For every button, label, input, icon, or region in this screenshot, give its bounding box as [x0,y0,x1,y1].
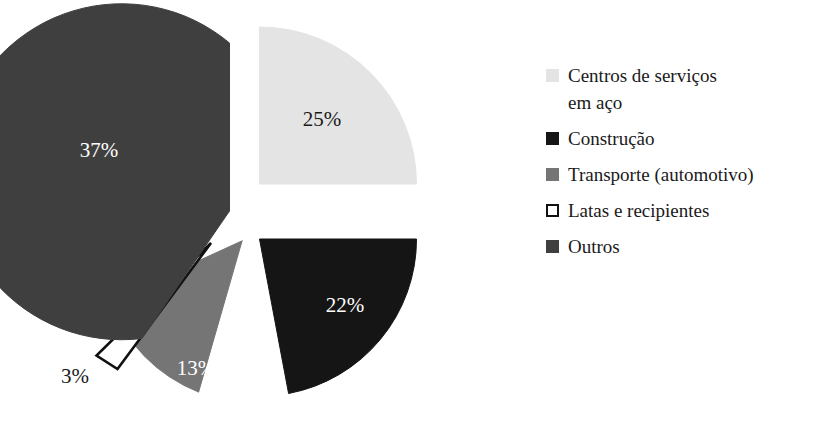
chart-legend: Centros de serviços em aço Construção Tr… [546,62,836,269]
legend-swatch-icon-transporte-automotivo [546,168,559,181]
pie-label-3: 3% [61,364,89,388]
legend-swatch-icon-centros-de-servicos-em-aco [546,69,559,82]
legend-swatch-icon-latas-e-recipientes [546,204,559,217]
legend-swatch-icon-outros [546,240,559,253]
pie-slice-centros-de-servicos-em-aco [260,27,417,184]
pie-label-37: 37% [80,138,119,162]
legend-label-outros: Outros [568,233,620,260]
legend-label-centros-de-servicos-em-aco: Centros de serviços em aço [568,62,717,116]
legend-swatch-icon-construcao [546,132,559,145]
pie-chart-graphic: 25% 22% 13% 3% 37% [0,0,500,427]
pie-label-22: 22% [326,293,365,317]
legend-item-outros[interactable]: Outros [546,233,836,260]
legend-item-transporte-automotivo[interactable]: Transporte (automotivo) [546,161,836,188]
pie-label-25: 25% [303,107,342,131]
legend-item-latas-e-recipientes[interactable]: Latas e recipientes [546,197,836,224]
pie-label-13: 13% [177,356,216,380]
legend-label-construcao: Construção [568,125,655,152]
pie-chart-figure: 25% 22% 13% 3% 37% Centros de serviços e… [0,0,837,427]
legend-item-construcao[interactable]: Construção [546,125,836,152]
legend-item-centros-de-servicos-em-aco[interactable]: Centros de serviços em aço [546,62,836,116]
legend-label-transporte-automotivo: Transporte (automotivo) [568,161,754,188]
legend-label-latas-e-recipientes: Latas e recipientes [568,197,709,224]
